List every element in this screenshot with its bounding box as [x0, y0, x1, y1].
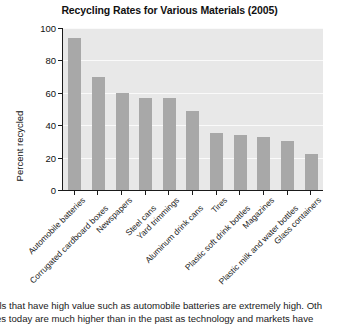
chart-figure: Recycling Rates for Various Materials (2… [0, 0, 339, 292]
y-tick-label: 80 [16, 55, 56, 66]
bar [92, 77, 105, 190]
bar [186, 111, 199, 190]
x-tick-mark [192, 191, 193, 195]
y-tick-label: 40 [16, 120, 56, 131]
x-tick-mark [310, 191, 311, 195]
bar-series [63, 28, 323, 190]
chart-title: Recycling Rates for Various Materials (2… [0, 4, 339, 16]
x-tick-label: Automobile batteries [26, 195, 87, 256]
bar [305, 154, 318, 190]
bar [210, 133, 223, 190]
y-tick-label: 60 [16, 87, 56, 98]
y-tick-label: 100 [16, 23, 56, 34]
body-text-line-2: ates today are much higher than in the p… [0, 312, 313, 326]
bar [139, 98, 152, 190]
x-tick-mark [287, 191, 288, 195]
x-tick-label: Tires [209, 195, 229, 215]
x-tick-mark [263, 191, 264, 195]
x-tick-mark [145, 191, 146, 195]
x-tick-mark [216, 191, 217, 195]
x-tick-mark [74, 191, 75, 195]
bar [163, 98, 176, 190]
y-tick-label: 0 [16, 185, 56, 196]
plot-area [62, 28, 323, 191]
x-tick-mark [121, 191, 122, 195]
y-tick-label: 20 [16, 152, 56, 163]
x-axis-labels: Automobile batteriesCorrugated cardboard… [62, 191, 338, 292]
bar [257, 137, 270, 190]
body-text-line-1: ials that have high value such as automo… [0, 299, 322, 313]
bar [68, 38, 81, 190]
x-tick-mark [168, 191, 169, 195]
x-tick-mark [239, 191, 240, 195]
bar [116, 93, 129, 190]
bar [234, 135, 247, 190]
bar [281, 141, 294, 190]
x-tick-mark [97, 191, 98, 195]
